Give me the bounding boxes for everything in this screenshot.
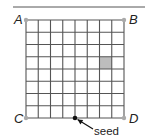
corner-dot-a	[24, 18, 28, 22]
corner-label-d: D	[129, 111, 138, 126]
grid-diagram: ABCD seed	[0, 0, 149, 136]
corner-label-b: B	[129, 12, 138, 27]
shaded-cell-rect	[100, 57, 112, 69]
seed-dot	[73, 116, 78, 121]
seed-marker: seed	[73, 116, 119, 136]
corner-dot-c	[24, 116, 28, 120]
seed-label: seed	[94, 125, 119, 136]
corner-dot-d	[122, 116, 126, 120]
corner-label-c: C	[14, 111, 24, 126]
grid-lines	[26, 20, 124, 118]
shaded-cell	[100, 57, 112, 69]
corner-label-a: A	[13, 12, 23, 27]
corner-dot-b	[122, 18, 126, 22]
